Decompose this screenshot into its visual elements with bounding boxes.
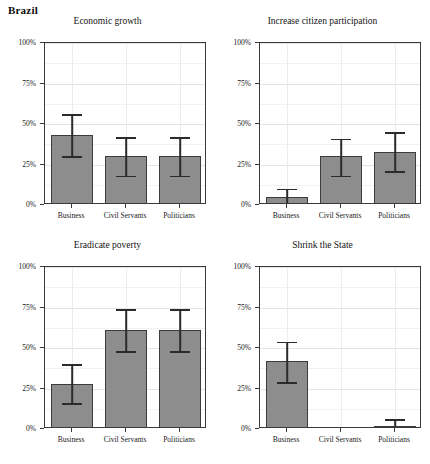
x-tick-mark [71,428,72,432]
x-tick-mark [125,204,126,208]
error-bar-cap-lower [170,176,190,178]
error-bar-stem [340,139,342,176]
error-bar-cap-lower [170,351,190,353]
plot-area-economic-growth [44,42,206,204]
panel-eradicate-poverty: Eradicate poverty0%25%50%75%100%Business… [0,240,215,464]
x-tick-label-civil-servants: Civil Servants [104,435,147,444]
y-tick-mark [255,123,259,124]
plot-area-eradicate-poverty [44,266,206,428]
error-bar-cap-upper [116,137,136,139]
y-tick-label: 75% [237,78,251,87]
error-bar-economic-growth-business [51,43,93,204]
error-bar-cap-lower [116,176,136,178]
y-tick-mark [40,266,44,267]
error-bar-cap-upper [170,309,190,311]
error-bar-shrink-the-state-business [266,267,308,428]
x-tick-label-politicians: Politicians [163,211,195,220]
y-tick-mark [255,347,259,348]
panel-shrink-the-state: Shrink the State0%25%50%75%100%BusinessC… [215,240,430,464]
y-tick-mark [255,388,259,389]
x-tick-mark [394,428,395,432]
x-tick-label-business: Business [273,211,300,220]
y-tick-label: 50% [22,119,36,128]
error-bar-cap-upper [62,114,82,116]
error-bar-stem [71,364,73,403]
bar-shrink-the-state-civil-servants[interactable] [320,428,362,429]
y-tick-mark [255,83,259,84]
x-tick-label-business: Business [58,435,85,444]
error-bar-increase-citizen-participation-civil-servants [320,43,362,204]
x-tick-label-politicians: Politicians [378,435,410,444]
y-tick-label: 25% [237,159,251,168]
gridline-x [341,267,342,427]
error-bar-cap-upper [277,342,297,344]
panel-title-shrink-the-state: Shrink the State [215,240,430,250]
plot-area-shrink-the-state [259,266,421,428]
y-tick-mark [40,388,44,389]
y-tick-label: 100% [234,262,252,271]
y-tick-mark [40,307,44,308]
y-tick-mark [40,164,44,165]
error-bar-stem [179,137,181,176]
y-tick-mark [40,204,44,205]
error-bar-cap-upper [116,309,136,311]
y-tick-label: 75% [237,302,251,311]
error-bar-stem [394,132,396,171]
y-tick-mark [255,307,259,308]
panel-title-eradicate-poverty: Eradicate poverty [0,240,215,250]
error-bar-cap-upper [385,132,405,134]
figure-root: Brazil Economic growth0%25%50%75%100%Bus… [0,0,430,464]
y-tick-label: 0% [241,200,251,209]
x-tick-mark [179,428,180,432]
x-tick-mark [286,204,287,208]
y-tick-label: 50% [22,343,36,352]
error-bar-cap-lower [62,403,82,405]
error-bar-stem [125,309,127,351]
error-bar-cap-upper [170,137,190,139]
y-tick-mark [40,428,44,429]
error-bar-eradicate-poverty-business [51,267,93,428]
y-tick-label: 0% [26,424,36,433]
error-bar-eradicate-poverty-politicians [159,267,201,428]
error-bar-cap-lower [62,156,82,158]
x-tick-label-civil-servants: Civil Servants [319,435,362,444]
y-tick-mark [40,123,44,124]
error-bar-economic-growth-politicians [159,43,201,204]
y-tick-mark [255,428,259,429]
figure-country-title: Brazil [8,4,38,16]
x-tick-mark [340,204,341,208]
y-tick-label: 100% [19,38,37,47]
error-bar-cap-lower [277,382,297,384]
x-tick-label-business: Business [58,211,85,220]
x-tick-mark [340,428,341,432]
error-bar-cap-lower [116,351,136,353]
error-bar-increase-citizen-participation-business [266,43,308,204]
x-tick-mark [286,428,287,432]
error-bar-stem [286,342,288,383]
x-tick-mark [394,204,395,208]
y-tick-label: 100% [19,262,37,271]
x-tick-mark [71,204,72,208]
y-tick-mark [40,42,44,43]
y-tick-label: 75% [22,78,36,87]
error-bar-cap-upper [62,364,82,366]
x-tick-label-civil-servants: Civil Servants [319,211,362,220]
x-tick-label-business: Business [273,435,300,444]
y-tick-mark [255,42,259,43]
error-bar-cap-upper [385,419,405,421]
error-bar-stem [71,114,73,156]
x-tick-label-politicians: Politicians [163,435,195,444]
error-bar-cap-upper [277,189,297,191]
y-tick-mark [255,266,259,267]
y-tick-label: 50% [237,119,251,128]
x-tick-label-politicians: Politicians [378,211,410,220]
y-tick-mark [40,347,44,348]
plot-area-increase-citizen-participation [259,42,421,204]
y-tick-mark [255,204,259,205]
error-bar-eradicate-poverty-civil-servants [105,267,147,428]
y-tick-label: 50% [237,343,251,352]
error-bar-increase-citizen-participation-politicians [374,43,416,204]
panel-increase-citizen-participation: Increase citizen participation0%25%50%75… [215,16,430,240]
y-tick-label: 75% [22,302,36,311]
y-tick-mark [40,83,44,84]
